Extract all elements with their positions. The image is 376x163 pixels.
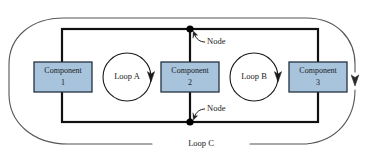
component-2-label-line2: 2 (188, 78, 192, 87)
component-1-label-line2: 1 (61, 78, 65, 87)
component-3-label-line2: 3 (316, 78, 320, 87)
component-1-box: Component 1 (34, 62, 92, 92)
component-3-box: Component 3 (289, 62, 347, 92)
loop-b-label: Loop B (241, 71, 267, 81)
component-3-label-line1: Component (299, 66, 337, 75)
loop-c-arrowhead (351, 75, 359, 86)
node-top-label: Node (207, 36, 226, 46)
node-bottom-label: Node (207, 103, 226, 113)
circuit-svg: Loop C Loop A Loop B Component 1 (0, 0, 376, 163)
loop-a-label: Loop A (114, 71, 141, 81)
node-top-dot (186, 25, 193, 32)
loop-c-label: Loop C (188, 138, 214, 148)
component-1-label-line1: Component (44, 66, 82, 75)
component-2-label-line1: Component (171, 66, 209, 75)
node-bottom-dot (186, 118, 193, 125)
component-2-box: Component 2 (161, 62, 219, 92)
circuit-diagram: Loop C Loop A Loop B Component 1 (0, 0, 376, 163)
